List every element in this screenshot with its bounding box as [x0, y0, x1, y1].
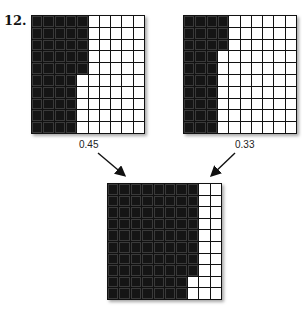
- arrows: [0, 0, 302, 315]
- arrow-right-icon: [212, 153, 235, 175]
- arrow-left-icon: [98, 153, 124, 175]
